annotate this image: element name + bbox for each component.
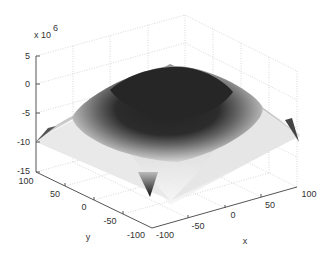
- surface: [36, 64, 300, 205]
- surface-plot: 5 0 -5 -10 -15 100 50 0 -50 -100 -100 -5…: [0, 0, 332, 259]
- z-tick-labels: 5 0 -5 -10 -15: [17, 51, 30, 176]
- z-tick-m10: -10: [17, 137, 30, 147]
- x-axis-label: x: [243, 236, 248, 246]
- z-multiplier-exponent: 6: [53, 23, 58, 33]
- y-axis-label: y: [86, 232, 91, 242]
- z-tick-5: 5: [25, 51, 30, 61]
- x-tick-m50: -50: [191, 221, 204, 231]
- x-tick-50: 50: [265, 200, 275, 210]
- y-tick-labels: 100 50 0 -50 -100: [18, 176, 145, 240]
- z-multiplier-base: x 10: [34, 30, 51, 40]
- x-tick-100: 100: [301, 189, 316, 199]
- y-tick-50: 50: [50, 189, 60, 199]
- z-tick-m15: -15: [17, 166, 30, 176]
- y-tick-0: 0: [81, 202, 86, 212]
- y-tick-m100: -100: [127, 230, 145, 240]
- y-tick-100: 100: [18, 176, 33, 186]
- x-tick-0: 0: [230, 210, 235, 220]
- z-tick-m5: -5: [22, 108, 30, 118]
- x-tick-m100: -100: [156, 230, 174, 240]
- y-tick-m50: -50: [103, 216, 116, 226]
- z-multiplier: x 10 6: [34, 23, 58, 40]
- z-tick-0: 0: [25, 79, 30, 89]
